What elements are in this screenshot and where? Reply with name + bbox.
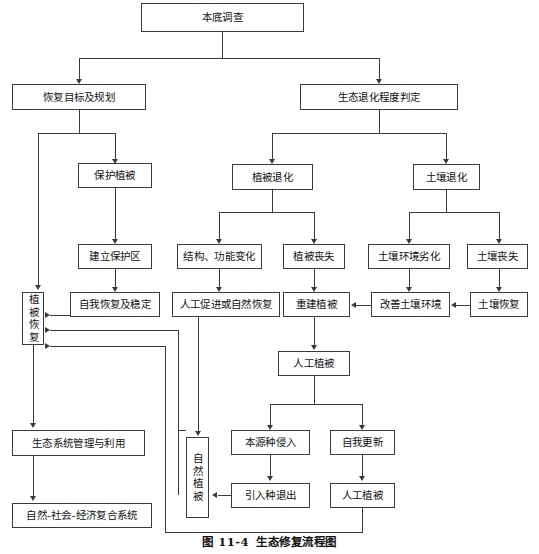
edge-n16-to-n15 [355, 305, 371, 306]
figure-caption: 图 11-4生态修复流程图 [0, 533, 539, 549]
node-native-species-invasion[interactable]: 本源种侵入 [231, 430, 310, 455]
node-improve-soil-environment[interactable]: 改善土壤环境 [371, 292, 450, 317]
edge-n21-into-n12 [50, 330, 60, 331]
edge-return-into-n12 [50, 346, 166, 347]
edge-bus-level1 [79, 58, 379, 59]
arrow-n16-to-n15 [351, 302, 356, 308]
node-artificial-vegetation-lower[interactable]: 人工植被 [330, 483, 395, 508]
edge-n18-to-n19 [270, 404, 271, 426]
node-restoration-goals[interactable]: 恢复目标及规划 [12, 84, 146, 110]
arrow-n14-to-n21 [195, 431, 201, 436]
edge-n21-left-stem [178, 430, 179, 495]
edge-n18-to-n20 [362, 404, 363, 426]
edge-n21-left-run [178, 430, 186, 431]
arrow-n15-to-n18 [311, 345, 317, 350]
edge-n22-to-n21 [218, 495, 231, 496]
arrow-n19-to-n22 [267, 476, 273, 481]
edge-n2-stem [79, 110, 80, 133]
edge-n21-up-stem [178, 330, 179, 430]
edge-n21-up-run [58, 330, 179, 331]
edge-n1-stem [222, 32, 223, 58]
figure-number: 图 11-4 [202, 535, 249, 549]
node-soil-restoration[interactable]: 土壤恢复 [470, 292, 528, 317]
edge-bus-n5 [219, 212, 314, 213]
edge-n3-stem [379, 110, 380, 133]
edge-n6-to-n10 [409, 212, 410, 240]
node-soil-environment-deterioration[interactable]: 土壤环境劣化 [368, 244, 450, 269]
node-assisted-or-natural-recovery[interactable]: 人工促进或自然恢复 [172, 292, 280, 317]
arrow-n22-to-n21 [212, 492, 217, 498]
edge-n5-stem [272, 190, 273, 212]
edge-bus-level2-right [272, 133, 447, 134]
edge-n18-stem [314, 376, 315, 404]
node-vegetation-degradation[interactable]: 植被退化 [232, 164, 313, 190]
edge-bus-to-n5 [272, 133, 273, 160]
edge-n19-to-n22 [270, 455, 271, 477]
arrow-n13-to-n12 [45, 312, 50, 318]
node-establish-reserve[interactable]: 建立保护区 [78, 244, 152, 269]
edge-n20-to-n23 [362, 455, 363, 477]
edge-n12-to-n24 [33, 345, 34, 424]
edge-n11-to-n17 [499, 269, 500, 288]
edge-bus-n18 [270, 404, 363, 405]
node-structure-function-change[interactable]: 结构、功能变化 [177, 244, 262, 269]
edge-bus-to-n2 [79, 58, 80, 80]
node-self-recovery-stability[interactable]: 自我恢复及稳定 [70, 292, 160, 317]
edge-bus-to-n6 [446, 133, 447, 160]
node-degradation-assessment[interactable]: 生态退化程度判定 [300, 84, 458, 110]
node-soil-loss[interactable]: 土壤丧失 [467, 244, 528, 269]
flowchart-figure: 本底调查 恢复目标及规划 生态退化程度判定 保护植被 植被退化 土壤退化 建立保… [0, 0, 539, 554]
edge-n24-to-n25 [33, 456, 34, 497]
node-introduced-species-exit[interactable]: 引入种退出 [231, 483, 310, 508]
arrow-n21-to-n12 [45, 327, 50, 333]
node-compound-system[interactable]: 自然-社会-经济复合系统 [12, 503, 152, 528]
figure-title: 生态修复流程图 [256, 535, 337, 549]
node-vegetation-loss[interactable]: 植被丧失 [283, 244, 345, 269]
edge-n14-to-n21 [198, 314, 199, 432]
edge-n23-drop [362, 508, 363, 532]
edge-n5-to-n9 [314, 212, 315, 240]
edge-n5-to-n8 [219, 212, 220, 240]
edge-bottom-return-up [165, 346, 166, 533]
node-artificial-vegetation-upper[interactable]: 人工植被 [278, 351, 350, 376]
edge-n13-run [50, 315, 71, 316]
edge-n6-stem [446, 190, 447, 212]
node-baseline-survey[interactable]: 本底调查 [141, 3, 304, 32]
edge-n2-to-n12 [38, 133, 39, 286]
edge-n4-to-n7 [115, 188, 116, 240]
node-protect-vegetation[interactable]: 保护植被 [78, 163, 152, 188]
arrow-n24-to-n25 [30, 496, 36, 501]
node-self-renewal[interactable]: 自我更新 [330, 430, 395, 455]
edge-n17-to-n16 [455, 305, 471, 306]
node-soil-degradation[interactable]: 土壤退化 [413, 164, 480, 190]
arrow-n12-to-n24 [30, 423, 36, 428]
edge-n2-to-n4 [115, 133, 116, 160]
edge-n7-to-n13 [115, 269, 116, 288]
arrow-return-to-n12 [45, 343, 50, 349]
edge-n9-to-n15 [314, 269, 315, 288]
node-ecosystem-management-use[interactable]: 生态系统管理与利用 [12, 430, 145, 456]
edge-n6-to-n11 [499, 212, 500, 240]
edge-bus-to-n3 [379, 58, 380, 80]
node-natural-vegetation[interactable]: 自然植被 [186, 437, 209, 518]
node-vegetation-restoration[interactable]: 植被恢复 [22, 292, 44, 345]
edge-n15-to-n18 [314, 317, 315, 346]
node-rebuild-vegetation[interactable]: 重建植被 [283, 292, 350, 317]
edge-n10-to-n16 [409, 269, 410, 288]
edge-bus-level2-left [38, 133, 116, 134]
arrow-n17-to-n16 [451, 302, 456, 308]
arrow-n20-to-n23 [359, 476, 365, 481]
edge-n8-to-n14 [219, 269, 220, 288]
arrow-to-n12 [35, 285, 41, 290]
edge-bottom-return-bus [165, 532, 363, 533]
edge-bus-n6 [409, 212, 499, 213]
